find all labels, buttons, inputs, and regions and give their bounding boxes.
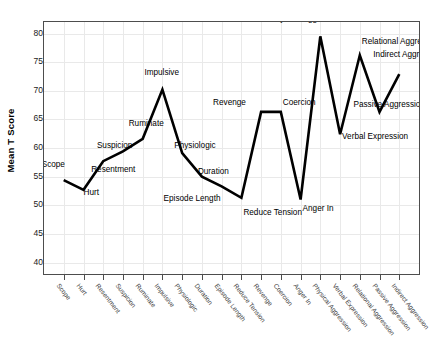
- x-tick-mark: [103, 275, 104, 280]
- x-tick-mark: [202, 275, 203, 280]
- x-tick-mark: [399, 275, 400, 280]
- data-point-label: Anger In: [303, 204, 334, 213]
- data-point-label: Duration: [198, 167, 229, 176]
- x-tick-mark: [182, 275, 183, 280]
- data-point-label: Indirect Aggression: [373, 50, 420, 59]
- x-tick-mark: [162, 275, 163, 280]
- data-point-label: Ruminate: [129, 119, 164, 128]
- x-tick-mark: [380, 275, 381, 280]
- line-chart: Mean T Score 404550556065707580 ScopeHur…: [0, 0, 434, 345]
- x-tick-label: Duration: [193, 282, 214, 306]
- x-tick-mark: [360, 275, 361, 280]
- x-tick-mark: [143, 275, 144, 280]
- x-tick-mark: [261, 275, 262, 280]
- data-point-label: Suspicion: [97, 141, 133, 150]
- data-point-label: Coercion: [283, 98, 316, 107]
- x-tick-mark: [340, 275, 341, 280]
- x-tick-label: Scope: [55, 282, 72, 301]
- data-point-label: Hurt: [84, 188, 99, 197]
- data-point-label: Physical Aggression: [270, 21, 343, 23]
- y-tick-label: 65: [19, 114, 43, 123]
- x-tick-label: Verbal Expression: [332, 282, 370, 328]
- x-tick-label: Coercion: [272, 282, 294, 307]
- x-tick-mark: [281, 275, 282, 280]
- data-point-label: Reduce Tension: [243, 208, 302, 217]
- data-point-label: Passive Aggression: [354, 100, 421, 109]
- y-axis-ticks: 404550556065707580: [9, 21, 43, 275]
- x-tick-label: Hurt: [75, 282, 88, 296]
- y-tick-label: 80: [19, 28, 43, 37]
- y-tick-label: 50: [19, 200, 43, 209]
- plot-area: ScopeHurtResentmentSuspicionRuminateImpu…: [43, 21, 420, 275]
- data-point-label: Resentment: [91, 165, 135, 174]
- x-tick-label: Indirect Aggression: [391, 282, 431, 331]
- y-tick-label: 70: [19, 85, 43, 94]
- x-tick-mark: [84, 275, 85, 280]
- y-tick-label: 75: [19, 57, 43, 66]
- x-tick-mark: [222, 275, 223, 280]
- x-tick-mark: [64, 275, 65, 280]
- x-tick-mark: [320, 275, 321, 280]
- data-point-label: Physiologic: [174, 141, 215, 150]
- data-point-label: Revenge: [213, 98, 246, 107]
- x-tick-label: Anger In: [292, 282, 313, 306]
- x-tick-mark: [301, 275, 302, 280]
- y-tick-label: 55: [19, 171, 43, 180]
- data-point-label: Episode Length: [164, 194, 221, 203]
- data-point-label: Impulsive: [144, 68, 179, 77]
- x-tick-mark: [123, 275, 124, 280]
- y-tick-label: 60: [19, 143, 43, 152]
- y-tick-label: 45: [19, 228, 43, 237]
- data-point-label: Relational Aggression: [362, 37, 420, 46]
- data-point-label: Verbal Expression: [342, 132, 408, 141]
- y-tick-label: 40: [19, 257, 43, 266]
- x-axis-ticks: ScopeHurtResentmentSuspicionRuminateImpu…: [43, 275, 420, 345]
- data-point-label: Scope: [43, 160, 65, 169]
- x-tick-mark: [241, 275, 242, 280]
